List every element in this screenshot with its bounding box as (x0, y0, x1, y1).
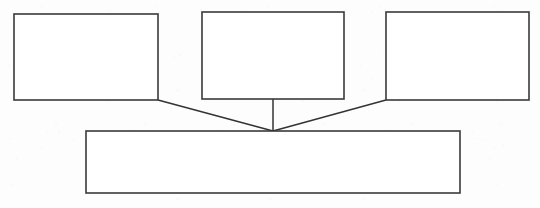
node-top-box-right[interactable] (386, 12, 529, 100)
node-top-box-center[interactable] (202, 12, 344, 99)
node-bottom-box[interactable] (86, 131, 460, 193)
diagram-canvas (0, 0, 540, 208)
connector-right-line (273, 100, 386, 131)
top-box-center-rect[interactable] (202, 12, 344, 99)
bottom-box-rect[interactable] (86, 131, 460, 193)
connector-group (158, 99, 386, 131)
connector-left-line (158, 100, 273, 131)
top-box-left-rect[interactable] (14, 14, 158, 100)
diagram-svg-layer (0, 0, 540, 208)
top-box-right-rect[interactable] (386, 12, 529, 100)
node-top-box-left[interactable] (14, 14, 158, 100)
